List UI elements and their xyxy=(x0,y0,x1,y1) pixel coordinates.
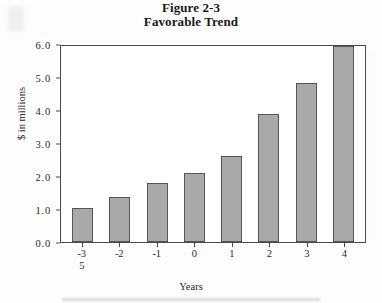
x-axis-tick-label: 1 xyxy=(213,248,251,260)
x-axis-tick-label: 2 xyxy=(251,248,289,260)
bar xyxy=(296,83,317,242)
y-axis-tick-label: 3.0 xyxy=(35,139,51,150)
x-axis-tickmark xyxy=(119,243,120,247)
x-axis-tick-slot: -1 xyxy=(138,248,176,278)
bar-slot xyxy=(250,46,287,242)
bar xyxy=(147,183,168,242)
x-axis-tick-slot: 3 xyxy=(288,248,326,278)
bar-slot xyxy=(213,46,250,242)
figure-title-line-2: Favorable Trend xyxy=(0,15,382,29)
figure-title-line-1: Figure 2-3 xyxy=(0,1,382,15)
figure-root: Figure 2-3 Favorable Trend 6.05.04.03.02… xyxy=(0,0,382,303)
y-axis-tick-label: 0.0 xyxy=(35,238,51,249)
bar xyxy=(333,46,354,242)
y-axis-tick-label: 5.0 xyxy=(35,73,51,84)
x-axis-ticks: -35-2-101234 xyxy=(60,248,366,278)
plot-frame xyxy=(60,45,366,243)
bar-slot xyxy=(288,46,325,242)
y-axis-ticks: 6.05.04.03.02.01.00.0 xyxy=(0,45,56,243)
x-axis-tickmark xyxy=(194,243,195,247)
y-axis-tick-label: 1.0 xyxy=(35,205,51,216)
bar xyxy=(258,114,279,242)
x-axis-tickmark xyxy=(344,243,345,247)
y-axis-tick-label: 6.0 xyxy=(35,40,51,51)
x-axis-tick-slot: -35 xyxy=(63,248,101,278)
y-axis-tick-label: 2.0 xyxy=(35,172,51,183)
x-axis-title: Years xyxy=(0,281,382,292)
figure-title: Figure 2-3 Favorable Trend xyxy=(0,1,382,29)
x-axis-tickmark xyxy=(232,243,233,247)
x-axis-tick-label: -2 xyxy=(101,248,139,260)
x-axis-tickmark xyxy=(269,243,270,247)
x-axis-tick-slot: -2 xyxy=(101,248,139,278)
bar xyxy=(221,156,242,242)
x-axis-tick-slot: 1 xyxy=(213,248,251,278)
bar-series xyxy=(61,46,365,242)
x-axis-tick-slot: 0 xyxy=(176,248,214,278)
scan-artifact-line xyxy=(62,298,320,301)
bar xyxy=(184,173,205,242)
bar xyxy=(109,197,130,242)
bar-slot xyxy=(139,46,176,242)
x-axis-tick-label-overflow: 5 xyxy=(63,260,101,272)
x-axis-tick-slot: 2 xyxy=(251,248,289,278)
x-axis-tick-label: 0 xyxy=(176,248,214,260)
x-axis-tick-label: 4 xyxy=(326,248,364,260)
x-axis-tickmark xyxy=(157,243,158,247)
x-axis-tick-label: 3 xyxy=(288,248,326,260)
bar-slot xyxy=(325,46,362,242)
bar-slot xyxy=(101,46,138,242)
y-axis-title: $ in millions xyxy=(16,69,27,159)
x-axis-tick-label: -3 xyxy=(63,248,101,260)
plot-area xyxy=(61,46,365,242)
x-axis-tick-slot: 4 xyxy=(326,248,364,278)
x-axis-tick-label: -1 xyxy=(138,248,176,260)
bar-slot xyxy=(176,46,213,242)
bar xyxy=(72,208,93,242)
x-axis-tickmark xyxy=(82,243,83,247)
x-axis-tickmark xyxy=(307,243,308,247)
bar-slot xyxy=(64,46,101,242)
y-axis-tick-label: 4.0 xyxy=(35,106,51,117)
